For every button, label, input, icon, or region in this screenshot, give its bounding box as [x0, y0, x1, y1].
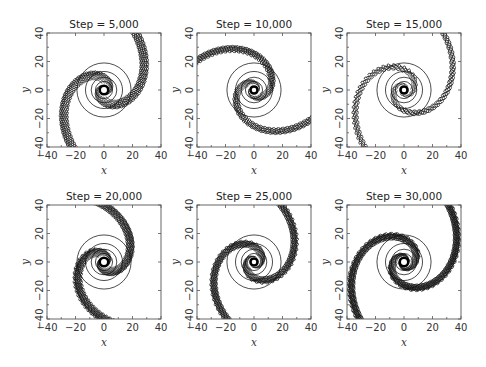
figure: −40−2002040−40−2002040Step = 5,000xy−40−…: [0, 0, 486, 367]
vortex-core: [400, 258, 409, 267]
x-tick-label: 20: [426, 150, 439, 161]
y-axis-label: y: [169, 258, 181, 266]
y-tick-label: 20: [334, 227, 345, 240]
x-tick-label: −20: [65, 322, 86, 333]
x-axis-label: x: [401, 336, 407, 348]
x-axis-label: x: [101, 164, 107, 176]
y-tick-label: −40: [34, 136, 45, 157]
panel-title: Step = 15,000: [366, 18, 442, 30]
y-tick-label: 0: [184, 87, 195, 93]
x-tick-label: 0: [401, 150, 407, 161]
contour-line: [388, 164, 460, 291]
x-tick-label: 0: [251, 150, 257, 161]
y-tick-label: 0: [334, 259, 345, 265]
x-tick-label: 20: [126, 322, 139, 333]
plot-frame: [347, 33, 461, 147]
panel-6: −40−2002040−40−2002040Step = 30,000xy: [319, 162, 467, 362]
y-tick-label: 20: [34, 227, 45, 240]
contour-line: [349, 234, 418, 361]
y-tick-label: 20: [34, 55, 45, 68]
panel-title: Step = 10,000: [216, 18, 292, 30]
y-tick-label: 20: [184, 227, 195, 240]
plot-frame: [347, 205, 461, 319]
y-axis-label: y: [19, 86, 31, 94]
contour-line: [347, 232, 420, 360]
contour-ring: [377, 63, 431, 117]
y-tick-label: −40: [184, 308, 195, 329]
panel-2: −40−2002040−40−2002040Step = 10,000xy: [159, 18, 349, 176]
y-tick-label: −20: [34, 280, 45, 301]
y-tick-label: 40: [184, 199, 195, 212]
x-tick-label: 40: [305, 322, 318, 333]
panel-title: Step = 20,000: [66, 190, 142, 202]
y-tick-label: −40: [334, 308, 345, 329]
vortex-core: [100, 86, 109, 95]
contour-line: [390, 163, 459, 290]
x-tick-label: −20: [365, 322, 386, 333]
contour-line: [348, 233, 420, 360]
contour-line: [90, 0, 147, 107]
panel-3: −40−2002040−40−2002040Step = 15,000xy: [319, 0, 467, 189]
y-axis-label: y: [19, 258, 31, 266]
vortex-core: [100, 258, 109, 267]
x-tick-label: −20: [65, 150, 86, 161]
x-tick-label: 20: [426, 322, 439, 333]
contour-line: [159, 45, 275, 116]
x-axis-label: x: [101, 336, 107, 348]
y-tick-label: −40: [34, 308, 45, 329]
y-tick-label: −20: [184, 280, 195, 301]
contour-line: [388, 164, 461, 292]
y-tick-label: −20: [334, 108, 345, 129]
x-axis-label: x: [251, 164, 257, 176]
contour-ring: [77, 235, 131, 289]
y-tick-label: 0: [184, 259, 195, 265]
vortex-core: [250, 258, 257, 265]
y-tick-label: 0: [34, 87, 45, 93]
x-tick-label: 40: [455, 150, 468, 161]
panel-1: −40−2002040−40−2002040Step = 5,000xy: [19, 0, 167, 189]
x-tick-label: 40: [155, 150, 168, 161]
contour-ring: [245, 253, 262, 270]
contour-line: [385, 0, 452, 113]
x-tick-label: 0: [251, 322, 257, 333]
y-tick-label: 40: [334, 27, 345, 40]
y-axis-label: y: [319, 86, 331, 94]
panel-title: Step = 5,000: [69, 18, 138, 30]
x-tick-label: 20: [126, 150, 139, 161]
vortex-core: [400, 86, 407, 93]
x-tick-label: 20: [276, 150, 289, 161]
y-axis-label: y: [319, 258, 331, 266]
y-tick-label: 20: [184, 55, 195, 68]
y-tick-label: −20: [184, 108, 195, 129]
x-tick-label: 0: [401, 322, 407, 333]
y-tick-label: −40: [334, 136, 345, 157]
panel-title: Step = 30,000: [366, 190, 442, 202]
plot-frame: [47, 205, 161, 319]
x-tick-label: −20: [365, 150, 386, 161]
x-tick-label: 0: [101, 322, 107, 333]
y-tick-label: 20: [334, 55, 345, 68]
y-axis-label: y: [169, 86, 181, 94]
x-axis-label: x: [251, 336, 257, 348]
vortex-core: [250, 86, 257, 93]
x-tick-label: 40: [455, 322, 468, 333]
y-tick-label: −20: [334, 280, 345, 301]
panel-4: −40−2002040−40−2002040Step = 20,000xy: [17, 190, 190, 348]
y-tick-label: −40: [184, 136, 195, 157]
panel-title: Step = 25,000: [216, 190, 292, 202]
contour-ring: [77, 63, 131, 117]
x-axis-label: x: [401, 164, 407, 176]
y-tick-label: 0: [34, 259, 45, 265]
y-tick-label: 40: [34, 27, 45, 40]
y-tick-label: 0: [334, 87, 345, 93]
panel-5: −40−2002040−40−2002040Step = 25,000xy: [169, 170, 317, 355]
y-tick-label: 40: [34, 199, 45, 212]
contour-ring: [245, 81, 262, 98]
x-tick-label: −20: [215, 322, 236, 333]
y-tick-label: 40: [334, 199, 345, 212]
y-tick-label: −20: [34, 108, 45, 129]
x-tick-label: 20: [276, 322, 289, 333]
contour-line: [233, 63, 349, 134]
y-tick-label: 40: [184, 27, 195, 40]
x-tick-label: 40: [155, 322, 168, 333]
